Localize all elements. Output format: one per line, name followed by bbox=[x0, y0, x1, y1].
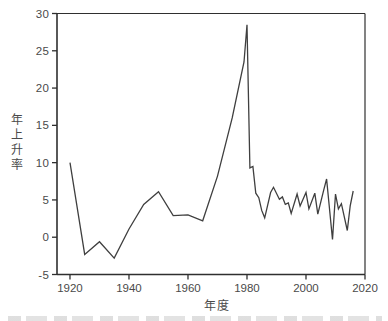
y-tick-label-30: 30 bbox=[27, 8, 49, 20]
x-tick-label-2000: 2000 bbox=[286, 282, 326, 294]
y-tick-label-5: 5 bbox=[27, 194, 49, 206]
y-tick-label-15: 15 bbox=[27, 119, 49, 131]
x-tick-label-1920: 1920 bbox=[50, 282, 90, 294]
y-tick-label-25: 25 bbox=[27, 45, 49, 57]
chart-canvas bbox=[0, 0, 388, 321]
y-axis-title: 年上升率 bbox=[7, 113, 24, 185]
chart-figure: 302520151050-5 192019401960198020002020 … bbox=[0, 0, 388, 321]
x-tick-label-1940: 1940 bbox=[109, 282, 149, 294]
x-tick-label-2020: 2020 bbox=[345, 282, 385, 294]
x-tick-label-1980: 1980 bbox=[227, 282, 267, 294]
y-tick-label-20: 20 bbox=[27, 82, 49, 94]
y-tick-label-0: 0 bbox=[27, 231, 49, 243]
y-tick-label--5: -5 bbox=[27, 269, 49, 281]
y-tick-label-10: 10 bbox=[27, 157, 49, 169]
x-tick-label-1960: 1960 bbox=[168, 282, 208, 294]
data-series-line bbox=[70, 25, 353, 258]
x-axis-title: 年度 bbox=[195, 296, 239, 313]
cropped-caption-strip bbox=[8, 316, 382, 321]
